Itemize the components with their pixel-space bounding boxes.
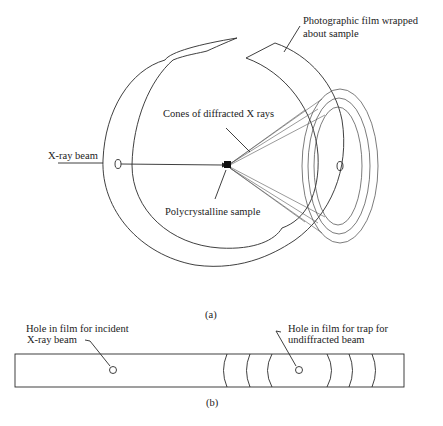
beam-line: [121, 164, 222, 165]
caption-a: (a): [205, 309, 217, 321]
incident-hole-leader: [85, 340, 110, 366]
film-right-flap: [246, 43, 344, 240]
cones-label: Cones of diffracted X rays: [163, 108, 274, 119]
incident-hole-label-line1: Hole in film for incident: [26, 323, 129, 334]
strip-arc-right-3: [372, 354, 376, 387]
film-outer-edge: [103, 38, 295, 266]
incident-hole: [115, 160, 121, 169]
debye-scherrer-diagram: Photographic film wrapped about sample C…: [0, 0, 443, 426]
film-right-inner-edge: [246, 58, 318, 228]
film-cylinder: [103, 26, 344, 266]
strip-arc-left-3: [268, 354, 273, 387]
film-inner-edge: [132, 60, 282, 248]
sample-square: [224, 161, 231, 168]
trap-hole: [337, 162, 343, 171]
incident-hole-label-line2: X-ray beam: [27, 334, 77, 345]
sample-label-leader: [215, 170, 226, 199]
film-left-flap: [173, 38, 237, 60]
strip-arc-right-1: [327, 354, 332, 387]
film-label-line2: about sample: [303, 28, 359, 39]
strip-arc-right-2: [349, 354, 353, 387]
strip-arc-left-1: [224, 354, 228, 387]
sample-label: Polycrystalline sample: [165, 206, 261, 217]
trap-hole-label-line1: Hole in film for trap for: [288, 323, 389, 334]
strip-arc-left-2: [247, 354, 251, 387]
ring-middle: [308, 98, 370, 234]
cones-label-leader: [226, 128, 250, 152]
film-strip-rect: [15, 354, 404, 387]
trap-hole-label-line2: undiffracted beam: [288, 334, 364, 345]
strip-trap-hole: [296, 367, 303, 374]
beam-label: X-ray beam: [48, 150, 98, 161]
ring-inner: [314, 107, 362, 225]
caption-b: (b): [206, 397, 219, 409]
film-label-line1: Photographic film wrapped: [303, 15, 419, 26]
film-label-leader: [284, 26, 300, 52]
strip-incident-hole: [110, 367, 117, 374]
